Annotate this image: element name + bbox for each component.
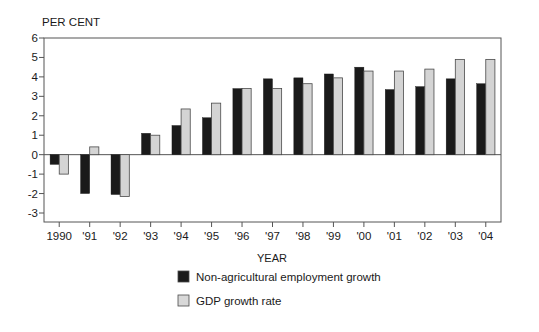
y-tick-label: 4 xyxy=(32,71,39,83)
x-tick-label: '95 xyxy=(204,230,219,242)
y-tick-label: 5 xyxy=(32,51,38,63)
x-tick-label: '00 xyxy=(356,230,371,242)
bar-employment-growth xyxy=(324,74,333,155)
x-axis-tick-labels: 1990'91'92'93'94'95'96'97'98'99'00'01'02… xyxy=(46,230,493,242)
bar-gdp-growth xyxy=(394,71,403,155)
x-tick-label: '94 xyxy=(174,230,190,242)
legend-label: GDP growth rate xyxy=(196,295,281,307)
legend-swatch-employment-growth xyxy=(178,271,189,282)
bar-employment-growth xyxy=(141,133,150,154)
bar-employment-growth xyxy=(477,84,486,155)
bar-gdp-growth xyxy=(303,84,312,155)
bar-employment-growth xyxy=(202,118,211,155)
x-tick-label: '91 xyxy=(82,230,97,242)
x-tick-label: '99 xyxy=(326,230,341,242)
y-tick-label: -1 xyxy=(28,168,38,180)
y-tick-label: -3 xyxy=(28,207,38,219)
x-tick-label: '97 xyxy=(265,230,280,242)
y-tick-label: -2 xyxy=(28,188,38,200)
bar-gdp-growth xyxy=(120,155,129,197)
bar-gdp-growth xyxy=(181,109,190,155)
bar-gdp-growth xyxy=(151,135,160,154)
legend-label: Non-agricultural employment growth xyxy=(196,271,381,283)
x-tick-label: 1990 xyxy=(46,230,72,242)
chart-figure: PER CENT 6543210-1-2-3 1990'91'92'93'94'… xyxy=(0,0,539,332)
bar-employment-growth xyxy=(385,90,394,155)
y-tick-label: 0 xyxy=(32,149,38,161)
x-tick-label: '03 xyxy=(448,230,463,242)
bar-employment-growth xyxy=(172,126,181,155)
bar-employment-growth xyxy=(446,79,455,155)
bar-employment-growth xyxy=(355,67,364,155)
x-tick-label: '92 xyxy=(113,230,128,242)
x-tick-label: '02 xyxy=(417,230,432,242)
x-tick-label: '96 xyxy=(235,230,250,242)
bar-employment-growth xyxy=(81,155,90,194)
x-tick-label: '04 xyxy=(478,230,494,242)
bar-gdp-growth xyxy=(90,147,99,155)
legend-swatch-gdp-growth xyxy=(178,295,189,306)
bar-gdp-growth xyxy=(364,71,373,155)
bar-employment-growth xyxy=(294,78,303,155)
bar-gdp-growth xyxy=(486,59,495,154)
bar-gdp-growth xyxy=(425,69,434,155)
bar-gdp-growth xyxy=(59,155,68,174)
y-tick-label: 2 xyxy=(32,110,38,122)
bar-employment-growth xyxy=(416,87,425,155)
y-tick-label: 3 xyxy=(32,90,38,102)
bar-employment-growth xyxy=(111,155,120,195)
bar-gdp-growth xyxy=(273,89,282,155)
bar-employment-growth xyxy=(50,155,59,165)
y-tick-label: 6 xyxy=(32,32,38,44)
bar-gdp-growth xyxy=(212,103,221,155)
y-tick-label: 1 xyxy=(32,129,38,141)
bar-gdp-growth xyxy=(242,89,251,155)
x-tick-label: '93 xyxy=(143,230,158,242)
x-axis-title: YEAR xyxy=(257,252,287,264)
x-tick-label: '98 xyxy=(295,230,310,242)
bar-employment-growth xyxy=(233,89,242,155)
y-axis-unit-label: PER CENT xyxy=(42,16,100,28)
x-tick-label: '01 xyxy=(387,230,402,242)
bar-gdp-growth xyxy=(455,59,464,154)
bar-employment-growth xyxy=(263,79,272,155)
bar-gdp-growth xyxy=(333,78,342,155)
